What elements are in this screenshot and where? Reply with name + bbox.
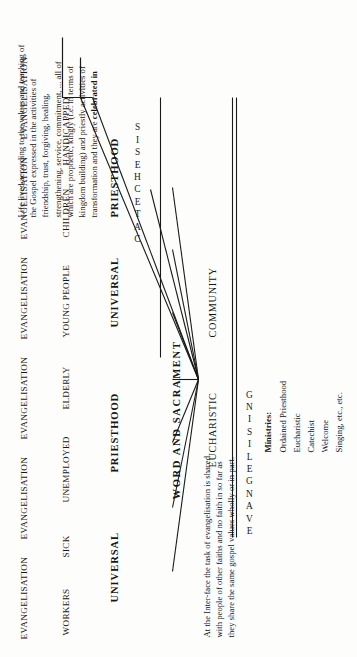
scanned-diagram-page: EVANGELISATION EVANGELISATION EVANGELISA… (0, 0, 357, 657)
ministry-item-4: Welcome (318, 419, 331, 452)
header-evangelisation-1: EVANGELISATION (18, 556, 29, 639)
vcol-letter: E (243, 464, 255, 474)
role-universal-1: UNIVERSAL (108, 532, 121, 603)
header-evangelisation-2: EVANGELISATION (18, 456, 29, 539)
ministry-item-2: Eucharistic (290, 413, 303, 452)
vcol-letter: I (243, 439, 255, 449)
vcol-letter: A (243, 501, 255, 511)
vcol-letter: E (131, 159, 143, 169)
vcol-letter: N (243, 489, 255, 499)
vcol-letter: S (243, 427, 255, 437)
group-elderly: ELDERLY (60, 366, 71, 409)
vcol-letter: S (131, 122, 143, 132)
group-sick: SICK (60, 535, 71, 557)
vertical-column-evangelising: EVANGELISING (244, 388, 254, 537)
vcol-letter: G (243, 390, 255, 400)
vcol-letter: A (131, 221, 143, 231)
vcol-letter: S (131, 147, 143, 157)
header-evangelisation-4: EVANGELISATION (18, 256, 29, 339)
axis-word-and-sacrament: WORD AND SACRAMENT (170, 340, 183, 499)
note-life-lived-text: Life lived according to the values and t… (15, 44, 98, 217)
vcol-letter: C (131, 184, 143, 194)
ministry-item-5: Singing, etc., etc. (332, 392, 345, 452)
note-life-lived: Life lived according to the values and t… (14, 42, 99, 217)
vcol-letter: V (243, 513, 255, 523)
ministries-heading: Ministries: (262, 411, 272, 452)
vcol-letter: H (131, 172, 143, 182)
header-evangelisation-3: EVANGELISATION (18, 356, 29, 439)
vcol-letter: C (131, 234, 143, 244)
axis-community: COMMUNITY (206, 267, 218, 337)
vcol-letter: I (131, 135, 143, 145)
role-priesthood-2: PRIESTHOOD (108, 137, 121, 217)
ministry-item-1: Ordained Priesthood (276, 380, 289, 452)
vcol-letter: N (243, 402, 255, 412)
vcol-letter: L (243, 451, 255, 461)
vcol-letter: T (131, 209, 143, 219)
vcol-letter: E (131, 197, 143, 207)
diagram-stage: EVANGELISATION EVANGELISATION EVANGELISA… (0, 0, 357, 657)
role-priesthood-1: PRIESTHOOD (108, 392, 121, 472)
group-unemployed: UNEMPLOYED (60, 436, 71, 502)
vcol-letter: G (243, 476, 255, 486)
group-young-people: YOUNG PEOPLE (60, 264, 71, 337)
group-workers: WORKERS (60, 588, 71, 635)
note-life-lived-emphasis: celebrated in (88, 71, 98, 119)
vcol-letter: E (243, 526, 255, 536)
role-universal-2: UNIVERSAL (108, 257, 121, 328)
ministry-item-3: Catechist (304, 420, 317, 452)
vcol-letter: I (243, 414, 255, 424)
vertical-column-catechesis: CATECHESIS (132, 121, 142, 245)
note-interface: At the Inter-face the task of evangelisa… (200, 447, 237, 637)
